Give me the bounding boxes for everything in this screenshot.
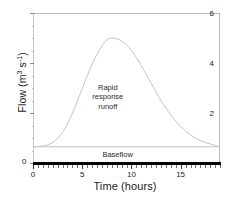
chart-curves: [33, 13, 220, 163]
y-axis-origin-label: 0: [22, 157, 26, 166]
x-axis-minor-tick: [38, 165, 39, 168]
x-axis-minor-tick: [215, 165, 216, 168]
y-axis-title: Flow (m3 s-1): [16, 17, 29, 147]
x-axis-minor-tick: [53, 165, 54, 168]
x-axis-minor-tick: [117, 165, 118, 168]
x-axis-tick-label: 15: [173, 170, 189, 179]
hydrograph-curve: [33, 38, 220, 147]
x-axis-minor-tick: [122, 165, 123, 168]
x-axis-minor-tick: [97, 165, 98, 168]
x-axis-minor-tick: [176, 165, 177, 168]
x-axis-minor-tick: [166, 165, 167, 168]
x-axis-minor-tick: [136, 165, 137, 168]
x-axis-minor-tick: [112, 165, 113, 168]
x-axis-minor-tick: [156, 165, 157, 168]
x-axis-minor-tick: [87, 165, 88, 168]
chart-annotation-baseflow: Baseflow: [102, 150, 132, 160]
x-axis-minor-tick: [141, 165, 142, 168]
x-axis-minor-tick: [43, 165, 44, 168]
x-axis-minor-tick: [151, 165, 152, 168]
x-axis-major-tick: [181, 165, 182, 169]
annotation-line: runoff: [92, 102, 123, 112]
x-axis-minor-tick: [48, 165, 49, 168]
x-axis-minor-tick: [200, 165, 201, 168]
chart-annotation-rapid-response-runoff: Rapidresponserunoff: [92, 83, 123, 112]
y-axis-title-mid: s: [16, 62, 28, 70]
x-axis-minor-tick: [72, 165, 73, 168]
x-axis-ticks: 051015: [33, 165, 221, 173]
x-axis-tick-label: 0: [25, 170, 41, 179]
x-axis-minor-tick: [195, 165, 196, 168]
x-axis-minor-tick: [171, 165, 172, 168]
x-axis-tick-label: 5: [74, 170, 90, 179]
x-axis-minor-tick: [205, 165, 206, 168]
x-axis-minor-tick: [58, 165, 59, 168]
x-axis-minor-tick: [92, 165, 93, 168]
x-axis-minor-tick: [127, 165, 128, 168]
x-axis-minor-tick: [107, 165, 108, 168]
x-axis-minor-tick: [77, 165, 78, 168]
x-axis-minor-tick: [102, 165, 103, 168]
x-axis-minor-tick: [161, 165, 162, 168]
x-axis-minor-tick: [191, 165, 192, 168]
annotation-line: response: [92, 92, 123, 102]
y-axis-title-end: ): [16, 52, 28, 56]
x-axis-tick-label: 10: [123, 170, 139, 179]
x-axis-minor-tick: [220, 165, 221, 168]
x-axis-major-tick: [33, 165, 34, 169]
x-axis-major-tick: [131, 165, 132, 169]
x-axis-major-tick: [82, 165, 83, 169]
x-axis-minor-tick: [186, 165, 187, 168]
x-axis-minor-tick: [63, 165, 64, 168]
hydrograph-figure: Flow (m3 s-1) 246 051015 0 Time (hours) …: [0, 0, 249, 198]
y-axis-title-text: Flow (m: [16, 74, 28, 112]
x-axis-minor-tick: [146, 165, 147, 168]
x-axis-minor-tick: [67, 165, 68, 168]
y-axis-title-exponent-1: 3: [16, 70, 23, 74]
annotation-line: Rapid: [92, 83, 123, 93]
y-axis-title-exponent-2: -1: [16, 56, 23, 62]
x-axis-title: Time (hours): [30, 180, 220, 192]
x-axis-minor-tick: [210, 165, 211, 168]
annotation-line: Baseflow: [102, 150, 132, 160]
